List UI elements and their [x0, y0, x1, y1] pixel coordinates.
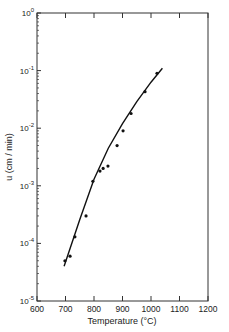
y-tick-label: 100 — [22, 7, 35, 18]
x-tick-label: 700 — [58, 304, 72, 314]
x-axis: 600700800900100011001200 — [30, 13, 218, 314]
y-tick-label: 10-2 — [20, 122, 35, 133]
x-tick-label: 1200 — [199, 304, 218, 314]
data-point — [102, 167, 105, 170]
chart: 10-510-410-310-210-1100 6007008009001000… — [0, 0, 229, 332]
x-tick-label: 800 — [87, 304, 101, 314]
y-axis: 10-510-410-310-210-1100 — [20, 7, 41, 306]
data-point — [115, 144, 118, 147]
plot-area — [37, 13, 208, 301]
y-tick-label: 10-1 — [20, 65, 35, 76]
data-series — [63, 68, 162, 266]
y-tick-label: 10-4 — [20, 237, 35, 248]
x-tick-label: 600 — [30, 304, 44, 314]
data-point — [106, 164, 109, 167]
plot-frame — [37, 13, 208, 301]
data-point — [84, 214, 87, 217]
data-point — [121, 129, 124, 132]
y-axis-label: u (cm / min) — [4, 133, 14, 181]
x-tick-label: 1100 — [170, 304, 189, 314]
x-axis-label: Temperature (°C) — [87, 316, 156, 326]
data-point — [68, 255, 71, 258]
fit-line — [64, 68, 162, 266]
y-tick-label: 10-3 — [20, 180, 35, 191]
x-tick-label: 1000 — [142, 304, 161, 314]
x-tick-label: 900 — [115, 304, 129, 314]
